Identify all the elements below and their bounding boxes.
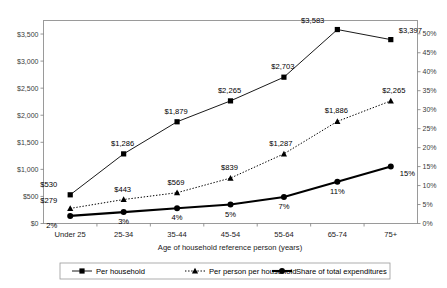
marker-square <box>388 37 393 42</box>
data-label: 7% <box>278 202 289 211</box>
right-tick-label: 25% <box>423 125 437 132</box>
plot-area <box>44 21 418 224</box>
x-category-label: 45-54 <box>221 230 240 239</box>
right-tick-label: 15% <box>423 163 437 170</box>
data-label: $1,886 <box>325 106 348 115</box>
left-tick-label: $3,000 <box>17 58 39 65</box>
marker-square <box>68 192 73 197</box>
data-label: $2,265 <box>218 86 241 95</box>
data-label: 15% <box>400 169 415 178</box>
marker-circle <box>281 194 287 200</box>
left-tick-label: $3,500 <box>17 31 39 38</box>
marker-square <box>281 75 286 80</box>
x-category-label: 75+ <box>384 230 397 239</box>
marker-square <box>121 151 126 156</box>
legend-label-square: Per household <box>96 267 145 276</box>
left-tick-label: $1,000 <box>17 166 39 173</box>
right-axis-ticks: 0%5%10%15%20%25%30%35%40%45%50% <box>418 30 437 227</box>
marker-square <box>228 98 233 103</box>
marker-circle <box>121 209 127 215</box>
data-label: $1,286 <box>111 139 134 148</box>
right-tick-label: 45% <box>423 49 437 56</box>
x-category-label: 65-74 <box>328 230 347 239</box>
data-label: 4% <box>172 213 183 222</box>
marker-circle <box>67 213 73 219</box>
data-label: $530 <box>40 180 57 189</box>
marker-square <box>174 119 179 124</box>
data-label: 5% <box>225 210 236 219</box>
x-category-label: Under 25 <box>55 230 86 239</box>
data-label: 3% <box>118 217 129 226</box>
x-axis-title: Age of household reference person (years… <box>158 243 303 252</box>
data-label: 11% <box>330 187 345 196</box>
data-label: $1,287 <box>269 139 292 148</box>
data-label: 2% <box>46 221 57 230</box>
right-tick-label: 0% <box>423 220 433 227</box>
data-label: $2,265 <box>382 86 405 95</box>
data-label: $279 <box>40 196 57 205</box>
right-tick-label: 50% <box>423 30 437 37</box>
left-tick-label: $500 <box>23 193 39 200</box>
right-tick-label: 10% <box>423 182 437 189</box>
data-label: $569 <box>168 178 185 187</box>
legend-label-circle: Share of total expenditures <box>296 267 387 276</box>
x-axis-ticks: Under 2525-3435-4445-5455-6465-7475+ <box>55 224 398 239</box>
right-tick-label: 30% <box>423 106 437 113</box>
chart-container: $0$500$1,000$1,500$2,000$2,500$3,000$3,5… <box>0 0 447 288</box>
chart-legend: Per householdPer person per householdSha… <box>60 263 390 279</box>
marker-circle <box>228 202 234 208</box>
marker-square <box>79 268 84 273</box>
marker-square <box>335 27 340 32</box>
marker-circle <box>279 268 285 274</box>
data-label: $1,879 <box>164 107 187 116</box>
left-tick-label: $0 <box>31 220 39 227</box>
x-category-label: 35-44 <box>167 230 186 239</box>
data-label: $443 <box>114 185 131 194</box>
left-tick-label: $1,500 <box>17 139 39 146</box>
right-tick-label: 20% <box>423 144 437 151</box>
data-label: $3,397 <box>399 26 422 35</box>
chart-svg: $0$500$1,000$1,500$2,000$2,500$3,000$3,5… <box>0 0 447 288</box>
right-tick-label: 35% <box>423 87 437 94</box>
data-label: $839 <box>221 163 238 172</box>
left-tick-label: $2,500 <box>17 85 39 92</box>
left-tick-label: $2,000 <box>17 112 39 119</box>
x-category-label: 25-34 <box>114 230 133 239</box>
data-label: $2,703 <box>271 62 294 71</box>
x-category-label: 55-64 <box>274 230 293 239</box>
marker-circle <box>174 205 180 211</box>
right-tick-label: 40% <box>423 68 437 75</box>
marker-circle <box>334 179 340 185</box>
data-label: $3,583 <box>301 16 324 25</box>
marker-circle <box>388 164 394 170</box>
right-tick-label: 5% <box>423 201 433 208</box>
